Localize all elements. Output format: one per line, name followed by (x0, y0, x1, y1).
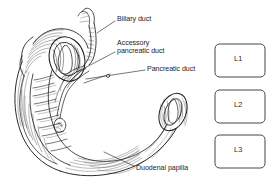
anatomy-figure: Biliary duct Accessorypancreatic duct Pa… (0, 0, 273, 191)
leader-accessory-pancreatic-duct (77, 52, 115, 72)
leader-pancreatic-duct (86, 70, 145, 79)
label-pancreatic-duct: Pancreatic duct (147, 65, 195, 73)
duodenum-outline (15, 8, 192, 175)
vertebra-label-l3: L3 (234, 145, 242, 154)
duodenum-illustration (0, 0, 273, 191)
leader-biliary-duct (97, 21, 115, 33)
label-accessory-line-2: pancreatic duct (117, 47, 164, 55)
vertebra-label-l1: L1 (234, 54, 242, 63)
vertebra-label-l2: L2 (234, 100, 242, 109)
label-duodenal-papilla: Duodenal papilla (136, 164, 188, 172)
label-biliary-duct: Biliary duct (117, 15, 151, 23)
label-accessory-pancreatic-duct: Accessorypancreatic duct (117, 39, 164, 56)
leader-marker-accessory-duct (107, 75, 110, 78)
label-accessory-line-1: Accessory (117, 39, 149, 47)
